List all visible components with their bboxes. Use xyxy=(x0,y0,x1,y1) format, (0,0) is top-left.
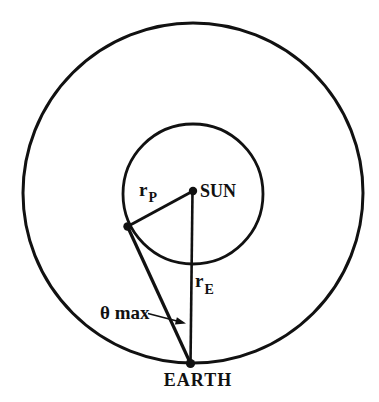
diagram-svg: SUN EARTH rP rE θ max xyxy=(0,0,379,402)
sun-point xyxy=(189,187,197,195)
tangent-point xyxy=(123,222,131,230)
re-line xyxy=(191,191,193,364)
theta-max-label: θ max xyxy=(100,302,150,323)
re-label-subscript: E xyxy=(204,282,213,297)
earth-point xyxy=(186,359,195,368)
rp-label-subscript: P xyxy=(148,190,157,205)
rp-label: rP xyxy=(139,179,157,205)
earth-label: EARTH xyxy=(164,370,232,390)
theta-arrow-shaft xyxy=(148,314,178,322)
orbital-diagram: SUN EARTH rP rE θ max xyxy=(0,0,379,402)
re-label-base: r xyxy=(195,270,204,291)
re-label: rE xyxy=(195,270,214,297)
theta-arrowhead-icon xyxy=(175,317,186,324)
rp-label-base: r xyxy=(139,179,148,200)
sun-label: SUN xyxy=(200,181,236,201)
tangent-line xyxy=(128,227,191,364)
rp-line xyxy=(128,191,194,227)
